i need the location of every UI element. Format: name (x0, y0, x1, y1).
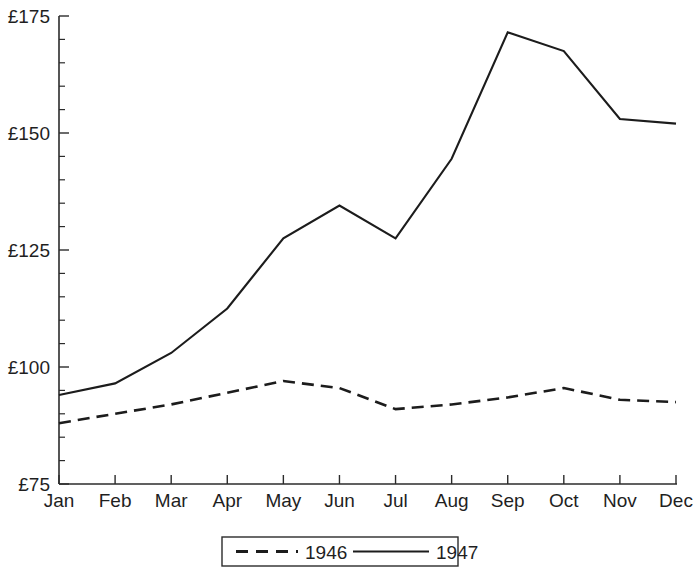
series-line-1947 (59, 32, 676, 395)
x-axis: JanFebMarAprMayJunJulAugSepOctNovDec (44, 475, 693, 511)
legend-label-1947: 1947 (436, 542, 478, 563)
line-chart: £175£150£125£100£75 JanFebMarAprMayJunJu… (0, 0, 696, 570)
y-axis-tick-label: £175 (8, 6, 50, 27)
x-axis-tick-label: Jan (44, 490, 75, 511)
axis-frame (59, 16, 677, 484)
x-axis-tick-label: Jul (383, 490, 407, 511)
y-axis-tick-label: £150 (8, 123, 50, 144)
chart-legend: 19461947 (222, 537, 478, 566)
y-axis: £175£150£125£100£75 (8, 6, 69, 495)
x-axis-tick-label: Oct (549, 490, 579, 511)
x-axis-tick-label: Aug (435, 490, 469, 511)
x-axis-tick-label: Feb (99, 490, 132, 511)
x-axis-tick-label: Sep (491, 490, 525, 511)
x-axis-tick-label: Jun (324, 490, 355, 511)
x-axis-tick-label: Apr (212, 490, 242, 511)
y-axis-tick-label: £125 (8, 240, 50, 261)
chart-canvas: £175£150£125£100£75 JanFebMarAprMayJunJu… (0, 0, 696, 570)
x-axis-tick-label: May (265, 490, 301, 511)
x-axis-tick-label: Dec (659, 490, 693, 511)
x-axis-tick-label: Nov (603, 490, 637, 511)
x-axis-tick-label: Mar (155, 490, 188, 511)
data-series-group (59, 32, 676, 423)
series-line-1946 (59, 381, 676, 423)
legend-label-1946: 1946 (305, 542, 347, 563)
y-axis-tick-label: £100 (8, 357, 50, 378)
